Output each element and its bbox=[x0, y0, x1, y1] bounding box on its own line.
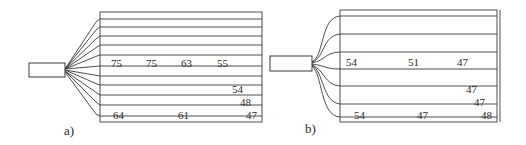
panel-b-source-box bbox=[270, 56, 312, 71]
panel-a-value: 54 bbox=[232, 83, 244, 95]
panel-b-value: 54 bbox=[346, 56, 358, 68]
panel-a-value: 75 bbox=[146, 57, 158, 69]
panel-a-value: 61 bbox=[178, 109, 189, 121]
panel-a-value: 48 bbox=[240, 96, 252, 108]
panel-a-value: 64 bbox=[113, 109, 125, 121]
panel-b-value: 47 bbox=[417, 109, 429, 121]
panel-b-value: 54 bbox=[354, 109, 366, 121]
panel-b-value: 47 bbox=[457, 56, 469, 68]
panel-b-value: 48 bbox=[481, 109, 493, 121]
panel-b-value: 47 bbox=[466, 83, 478, 95]
panel-a-fan-wires bbox=[65, 19, 100, 116]
panel-a-label: a) bbox=[64, 123, 74, 138]
panel-b: 54 51 47 47 47 54 47 48 b) bbox=[270, 10, 500, 136]
panel-a-value: 75 bbox=[111, 57, 123, 69]
panel-b-label: b) bbox=[305, 121, 316, 136]
panel-a: 75 75 63 55 54 48 64 61 47 a) bbox=[29, 12, 262, 138]
figure-canvas: 75 75 63 55 54 48 64 61 47 a) bbox=[0, 0, 526, 145]
panel-a-value: 63 bbox=[181, 57, 193, 69]
panel-a-value: 55 bbox=[217, 57, 229, 69]
panel-a-value: 47 bbox=[246, 109, 258, 121]
panel-b-fan-wires bbox=[312, 16, 340, 117]
panel-b-value: 47 bbox=[474, 96, 486, 108]
panel-a-source-box bbox=[29, 63, 65, 77]
panel-b-value: 51 bbox=[408, 56, 419, 68]
